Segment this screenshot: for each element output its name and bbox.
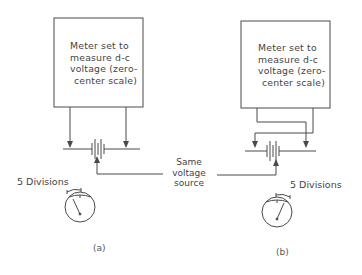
box-line: center scale) bbox=[70, 75, 138, 87]
box-line: center scale) bbox=[258, 77, 326, 89]
label-line: source bbox=[163, 178, 215, 189]
box-line: Meter set to bbox=[70, 40, 138, 52]
box-line: measure d-c bbox=[70, 52, 138, 64]
arrow-down-icon bbox=[252, 141, 258, 148]
battery-icon bbox=[267, 141, 279, 161]
source-pointer-a bbox=[97, 162, 163, 174]
lead-crossed-2-b bbox=[255, 108, 313, 142]
arrow-down-icon bbox=[303, 141, 309, 148]
box-line: voltage (zero- bbox=[258, 65, 326, 77]
meter-box-a-text: Meter set to measure d-c voltage (zero- … bbox=[70, 40, 138, 86]
arrow-up-icon bbox=[273, 159, 279, 166]
caption-a: (a) bbox=[93, 243, 106, 253]
battery-icon bbox=[92, 139, 104, 159]
label-line: voltage bbox=[163, 168, 215, 179]
label-line: Same bbox=[163, 157, 215, 168]
meter-box-b-text: Meter set to measure d-c voltage (zero- … bbox=[258, 42, 326, 88]
meter-dial-icon-a bbox=[65, 188, 95, 222]
deflection-label-b: 5 Divisions bbox=[290, 179, 342, 190]
same-voltage-source-label: Same voltage source bbox=[163, 157, 215, 189]
deflection-label-a: 5 Divisions bbox=[17, 176, 69, 187]
meter-dial-icon-b bbox=[262, 193, 292, 227]
caption-b: (b) bbox=[276, 247, 289, 257]
box-line: voltage (zero- bbox=[70, 63, 138, 75]
box-line: Meter set to bbox=[258, 42, 326, 54]
arrow-down-icon bbox=[67, 141, 73, 148]
arrow-down-icon bbox=[123, 141, 129, 148]
box-line: measure d-c bbox=[258, 54, 326, 66]
lead-crossed-1-b bbox=[257, 108, 306, 142]
source-pointer-b bbox=[217, 165, 276, 175]
